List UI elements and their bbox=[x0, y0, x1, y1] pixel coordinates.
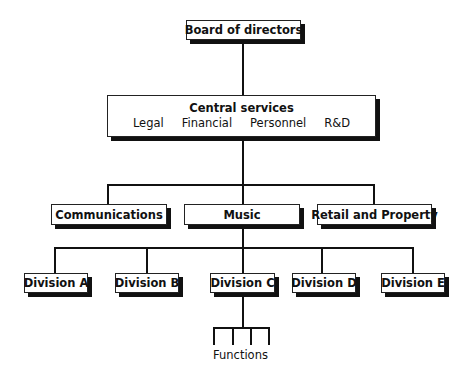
central-item-personnel: Personnel bbox=[250, 115, 306, 131]
division-c-box: Division C bbox=[210, 273, 275, 293]
retail-property-box: Retail and Property bbox=[317, 204, 432, 225]
board-of-directors-box: Board of directors bbox=[186, 20, 301, 40]
connector-division-c-down bbox=[242, 294, 244, 328]
connector-central-down bbox=[242, 138, 244, 185]
board-label: Board of directors bbox=[185, 23, 303, 37]
connector-function-2 bbox=[232, 327, 234, 345]
communications-box: Communications bbox=[51, 204, 167, 225]
retail-property-label: Retail and Property bbox=[311, 208, 438, 222]
central-item-financial: Financial bbox=[182, 115, 232, 131]
connector-function-1 bbox=[213, 327, 215, 345]
connector-division-a bbox=[54, 247, 56, 274]
division-e-label: Division E bbox=[381, 276, 445, 290]
music-label: Music bbox=[223, 208, 260, 222]
connector-board-central bbox=[242, 38, 244, 96]
music-box: Music bbox=[184, 204, 300, 225]
division-d-label: Division D bbox=[291, 276, 356, 290]
division-a-box: Division A bbox=[24, 273, 88, 293]
connector-function-4 bbox=[268, 327, 270, 345]
connector-music-down bbox=[242, 226, 244, 274]
central-services-box: Central services Legal Financial Personn… bbox=[107, 95, 376, 137]
connector-music bbox=[242, 184, 244, 206]
central-item-rd: R&D bbox=[324, 115, 350, 131]
division-b-box: Division B bbox=[115, 273, 179, 293]
division-b-label: Division B bbox=[115, 276, 180, 290]
functions-label: Functions bbox=[213, 348, 268, 362]
central-services-title: Central services bbox=[189, 101, 294, 115]
connector-function-3 bbox=[250, 327, 252, 345]
central-services-items: Legal Financial Personnel R&D bbox=[133, 115, 350, 131]
connector-retail bbox=[373, 184, 375, 206]
connector-division-d bbox=[321, 247, 323, 274]
central-item-legal: Legal bbox=[133, 115, 164, 131]
connector-communications bbox=[107, 184, 109, 206]
connector-division-b bbox=[146, 247, 148, 274]
division-a-label: Division A bbox=[24, 276, 89, 290]
connector-functions-horizontal bbox=[213, 327, 269, 329]
connector-divisions-horizontal bbox=[54, 247, 414, 249]
division-e-box: Division E bbox=[381, 273, 445, 293]
division-c-label: Division C bbox=[210, 276, 274, 290]
division-d-box: Division D bbox=[292, 273, 356, 293]
connector-level2-horizontal bbox=[107, 184, 375, 186]
connector-division-e bbox=[412, 247, 414, 274]
communications-label: Communications bbox=[55, 208, 163, 222]
